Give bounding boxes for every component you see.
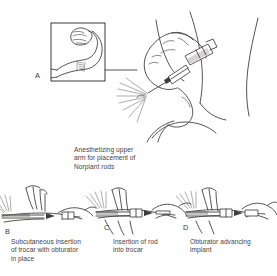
caption-obturator-advancing: Obturator advancing implant xyxy=(190,238,276,255)
syringe-group xyxy=(148,39,217,93)
caption-rod-insertion: Insertion of rod into trocar xyxy=(113,238,183,255)
panel-d-group xyxy=(176,188,277,234)
panel-b-fan-lines xyxy=(0,195,11,213)
panel-c-group xyxy=(86,188,191,235)
anesthetic-fan-lines xyxy=(117,78,147,122)
caption-anesthetizing: Anesthetizing upper arm for placement of… xyxy=(74,146,178,171)
panel-c-fan-lines xyxy=(86,191,106,209)
figure-root: .ln { fill:none; stroke:#434140; stroke-… xyxy=(0,0,277,276)
panel-a-inset-group xyxy=(51,23,137,81)
panel-letter-c: C xyxy=(104,224,110,232)
caption-trocar-insertion: Subcutaneous insertion of trocar with ob… xyxy=(11,238,107,263)
panel-letter-b: B xyxy=(5,228,10,236)
illustration-artwork: .ln { fill:none; stroke:#434140; stroke-… xyxy=(0,0,277,276)
panel-letter-a: A xyxy=(35,72,40,80)
main-scene-group xyxy=(117,12,258,142)
panel-letter-d: D xyxy=(183,224,189,232)
panel-b-group xyxy=(0,186,96,222)
